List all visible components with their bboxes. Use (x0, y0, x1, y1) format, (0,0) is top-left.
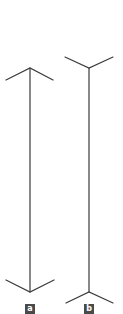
muller-lyer-figure (0, 0, 123, 314)
figure-a (6, 68, 54, 292)
fin-bottom-b (66, 292, 113, 303)
fin-top-b (65, 57, 113, 68)
figure-b (65, 57, 113, 303)
label-b: b (84, 304, 94, 314)
label-a: a (25, 304, 35, 314)
